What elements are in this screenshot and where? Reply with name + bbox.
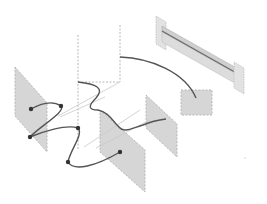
beam-side-face [162, 32, 240, 86]
node-3 [28, 135, 32, 139]
middle-panel [100, 110, 145, 192]
node-1 [29, 107, 33, 111]
beam-center-line [162, 31, 240, 75]
speck [244, 157, 246, 159]
diagram-canvas [0, 0, 267, 204]
beam-end-plate-right [234, 62, 244, 94]
beam-3d [156, 16, 244, 94]
right-panel [146, 95, 177, 157]
node-5 [66, 160, 70, 164]
node-4 [76, 126, 80, 130]
small-square [181, 90, 212, 115]
node-6 [118, 150, 122, 154]
node-2 [59, 104, 63, 108]
